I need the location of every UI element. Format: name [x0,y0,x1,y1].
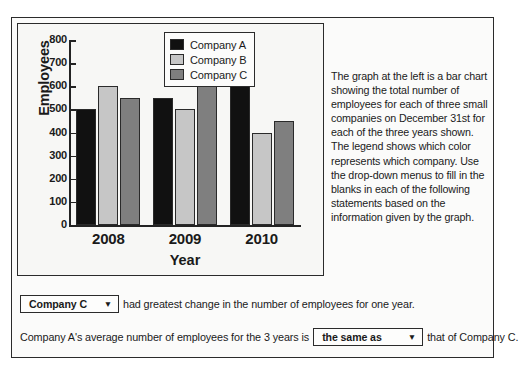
y-axis-tick: 500 [18,109,76,110]
y-axis-tick: 0 [18,225,76,226]
y-axis-tick: 700 [18,63,76,64]
y-axis-tick: 200 [18,179,76,180]
y-axis-tick: 800 [18,40,76,41]
y-axis-tick: 600 [18,86,76,87]
bar-company-a-2008 [76,109,96,225]
dropdown-comparison-select[interactable]: the same as ▼ [313,328,423,346]
legend-label: Company B [190,54,247,66]
y-axis-tick: 400 [18,133,76,134]
bar-company-b-2009 [175,109,195,225]
bar-company-c-2010 [274,121,294,225]
bar-company-a-2010 [230,86,250,225]
statement-first: Company C ▼ had greatest change in the n… [20,295,419,313]
chevron-down-icon: ▼ [408,333,416,342]
bar-group [76,40,140,225]
legend-swatch-icon [170,39,184,50]
x-axis-line [69,225,301,227]
bar-company-c-2008 [120,98,140,225]
legend-label: Company A [190,39,246,51]
x-axis-tick-label: 2009 [147,230,224,247]
legend-label: Company C [190,69,247,81]
dropdown-company-select[interactable]: Company C ▼ [20,295,119,313]
x-axis-title: Year [70,252,300,268]
y-axis-tick: 100 [18,202,76,203]
y-axis-tick-label: 600 [49,79,67,91]
statement-first-text: had greatest change in the number of emp… [119,298,419,310]
y-axis-tick-label: 800 [49,33,67,45]
x-axis-tick-label: 2008 [70,230,147,247]
legend-item: Company A [170,37,247,52]
y-axis-tick-label: 200 [49,172,67,184]
worksheet-page: Employees 0100200300400500600700800 2008… [11,17,494,358]
y-axis-tick-label: 100 [49,195,67,207]
legend-swatch-icon [170,69,184,80]
legend-item: Company C [170,67,247,82]
bar-company-a-2009 [153,98,173,225]
chevron-down-icon: ▼ [104,300,112,309]
y-axis-tick-mark [71,225,76,227]
dropdown-company-value: Company C [29,298,87,310]
bar-company-b-2010 [252,133,272,226]
chart-legend: Company ACompany BCompany C [164,32,255,87]
x-axis-tick-label: 2010 [223,230,300,247]
y-axis-tick-label: 0 [61,218,67,230]
legend-item: Company B [170,52,247,67]
y-axis-tick-label: 500 [49,102,67,114]
legend-swatch-icon [170,54,184,65]
y-axis-tick: 300 [18,156,76,157]
description-paragraph: The graph at the left is a bar chart sho… [331,69,489,224]
chart-panel: Employees 0100200300400500600700800 2008… [17,23,324,276]
y-axis-tick-label: 400 [49,126,67,138]
y-axis-tick-label: 700 [49,56,67,68]
statement-second-text-after: that of Company C. [423,331,522,343]
bar-company-c-2009 [197,75,217,225]
statement-second-text-before: Company A's average number of employees … [20,331,313,343]
statement-second: Company A's average number of employees … [20,328,522,346]
dropdown-comparison-value: the same as [322,331,382,343]
y-axis-tick-label: 300 [49,149,67,161]
bar-company-b-2008 [98,86,118,225]
